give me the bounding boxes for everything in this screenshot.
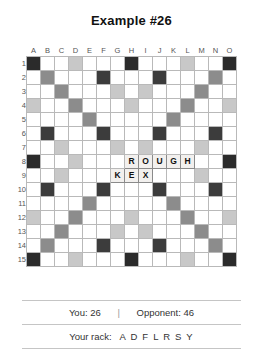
board-cell-F13[interactable] [97,225,111,239]
board-cell-A7[interactable] [27,141,41,155]
board-cell-C7[interactable] [55,141,69,155]
board-cell-E4[interactable] [83,99,97,113]
board-cell-F1[interactable] [97,57,111,71]
board-cell-B3[interactable] [41,85,55,99]
board-cell-J9[interactable] [153,169,167,183]
board-cell-N11[interactable] [209,197,223,211]
board-cell-E12[interactable] [83,211,97,225]
board-cell-L9[interactable] [181,169,195,183]
board-cell-E3[interactable] [83,85,97,99]
board-cell-A13[interactable] [27,225,41,239]
board-cell-K7[interactable] [167,141,181,155]
board-cell-B8[interactable] [41,155,55,169]
board-cell-N9[interactable] [209,169,223,183]
board-cell-O9[interactable] [223,169,237,183]
board-cell-M12[interactable] [195,211,209,225]
board-cell-A6[interactable] [27,127,41,141]
board-cell-J15[interactable] [153,253,167,267]
board-cell-O1[interactable] [223,57,237,71]
board-cell-O7[interactable] [223,141,237,155]
board-cell-C1[interactable] [55,57,69,71]
board-cell-A10[interactable] [27,183,41,197]
board-cell-D9[interactable] [69,169,83,183]
board-cell-F3[interactable] [97,85,111,99]
board-cell-F15[interactable] [97,253,111,267]
board-cell-I15[interactable] [139,253,153,267]
board-cell-D2[interactable] [69,71,83,85]
board-cell-C11[interactable] [55,197,69,211]
board-cell-G2[interactable] [111,71,125,85]
board-cell-K5[interactable] [167,113,181,127]
board-cell-A3[interactable] [27,85,41,99]
board-cell-B11[interactable] [41,197,55,211]
board-cell-G11[interactable] [111,197,125,211]
board-cell-G3[interactable] [111,85,125,99]
board-cell-K4[interactable] [167,99,181,113]
board-cell-N6[interactable] [209,127,223,141]
board-cell-O14[interactable] [223,239,237,253]
board-cell-B7[interactable] [41,141,55,155]
board-cell-N15[interactable] [209,253,223,267]
board-cell-E9[interactable] [83,169,97,183]
board-cell-M3[interactable] [195,85,209,99]
board-tile-I9[interactable]: X [139,169,153,183]
board-cell-I12[interactable] [139,211,153,225]
board-tile-H8[interactable]: R [125,155,139,169]
board-cell-H15[interactable] [125,253,139,267]
board-cell-M6[interactable] [195,127,209,141]
board-cell-K6[interactable] [167,127,181,141]
board-cell-E11[interactable] [83,197,97,211]
board-cell-N12[interactable] [209,211,223,225]
board-tile-H9[interactable]: E [125,169,139,183]
board-cell-H10[interactable] [125,183,139,197]
board-cell-H13[interactable] [125,225,139,239]
board-cell-J1[interactable] [153,57,167,71]
board-cell-N3[interactable] [209,85,223,99]
board-cell-O2[interactable] [223,71,237,85]
board-cell-F2[interactable] [97,71,111,85]
board-cell-M8[interactable] [195,155,209,169]
board-cell-G15[interactable] [111,253,125,267]
board-cell-C4[interactable] [55,99,69,113]
board-cell-K10[interactable] [167,183,181,197]
board-cell-H6[interactable] [125,127,139,141]
board-cell-L4[interactable] [181,99,195,113]
board-cell-L1[interactable] [181,57,195,71]
board-cell-H7[interactable] [125,141,139,155]
board-cell-G10[interactable] [111,183,125,197]
board-cell-E10[interactable] [83,183,97,197]
board-cell-C14[interactable] [55,239,69,253]
board-cell-B10[interactable] [41,183,55,197]
board-cell-N1[interactable] [209,57,223,71]
board-cell-H5[interactable] [125,113,139,127]
board-cell-L12[interactable] [181,211,195,225]
board-cell-I4[interactable] [139,99,153,113]
board-cell-L3[interactable] [181,85,195,99]
board-cell-M11[interactable] [195,197,209,211]
board-cell-F14[interactable] [97,239,111,253]
board-cell-H11[interactable] [125,197,139,211]
board-cell-L15[interactable] [181,253,195,267]
board-cell-G4[interactable] [111,99,125,113]
board-cell-H14[interactable] [125,239,139,253]
board-cell-E6[interactable] [83,127,97,141]
board-cell-C5[interactable] [55,113,69,127]
board-cell-N8[interactable] [209,155,223,169]
board-cell-B13[interactable] [41,225,55,239]
board-cell-E14[interactable] [83,239,97,253]
board-cell-I11[interactable] [139,197,153,211]
board-tile-I8[interactable]: O [139,155,153,169]
board-cell-L11[interactable] [181,197,195,211]
board-cell-K2[interactable] [167,71,181,85]
board-cell-C6[interactable] [55,127,69,141]
board-cell-H12[interactable] [125,211,139,225]
board-cell-G14[interactable] [111,239,125,253]
board-cell-E8[interactable] [83,155,97,169]
board-cell-M1[interactable] [195,57,209,71]
board-tile-G9[interactable]: K [111,169,125,183]
board-cell-J7[interactable] [153,141,167,155]
board-cell-J3[interactable] [153,85,167,99]
board-cell-I5[interactable] [139,113,153,127]
board-cell-I3[interactable] [139,85,153,99]
board-cell-K1[interactable] [167,57,181,71]
